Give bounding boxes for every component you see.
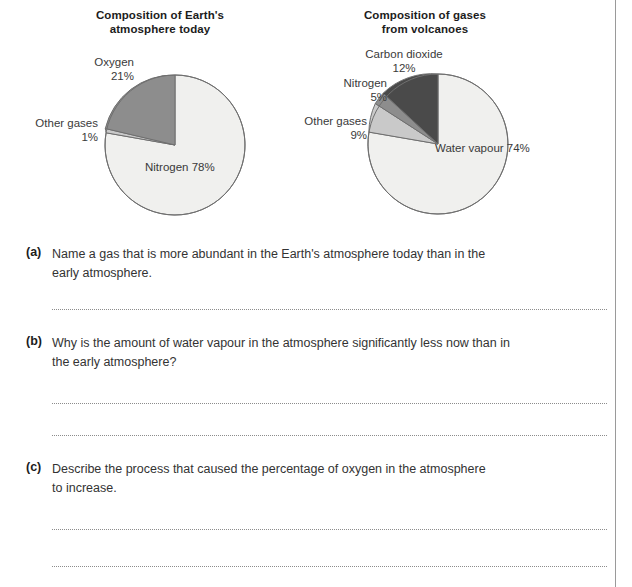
- pie-label-water-vapour-name-2: vapour: [468, 142, 503, 154]
- page-right-margin-rule: [615, 0, 616, 587]
- pie-label-nitrogen: Nitrogen 78%: [145, 160, 205, 174]
- question-a-line-2: early atmosphere.: [52, 264, 632, 283]
- pie-area-volcano: Carbon dioxide 12% Nitrogen 5% Other gas…: [295, 45, 555, 230]
- pie-label-water-vapour-name-1: Water: [435, 142, 465, 154]
- pie-label-nitrogen-pct: 78%: [192, 161, 215, 173]
- question-c-text: Describe the process that caused the per…: [28, 460, 632, 498]
- pie-label-other-gases-name: Other gases: [35, 117, 98, 129]
- pie-label-nitrogen: Nitrogen 5%: [344, 76, 387, 104]
- pie-label-carbon-dioxide-pct: 12%: [339, 61, 469, 75]
- chart-title-line-1: Composition of gases: [364, 9, 486, 21]
- pie-label-water-vapour-pct: 74%: [507, 142, 530, 154]
- question-b-head: (b) Why is the amount of water vapour in…: [0, 334, 632, 372]
- question-b-letter: (b): [26, 334, 42, 348]
- pie-label-nitrogen-name: Nitrogen: [344, 77, 387, 89]
- pie-area-earth: Oxygen 21% Other gases 1% Nitrogen 78%: [30, 45, 290, 230]
- chart-title-volcano-gases: Composition of gases from volcanoes: [295, 8, 555, 36]
- answer-line-c-2[interactable]: [52, 565, 607, 567]
- pie-label-carbon-dioxide-name: Carbon dioxide: [365, 48, 442, 60]
- pie-label-nitrogen-name: Nitrogen: [145, 161, 188, 173]
- question-c-letter: (c): [26, 460, 41, 474]
- pie-label-other-gases: Other gases 9%: [304, 114, 367, 142]
- pie-label-other-gases-name: Other gases: [304, 115, 367, 127]
- pie-label-other-gases: Other gases 1%: [35, 116, 98, 144]
- chart-title-line-1: Composition of Earth's: [96, 9, 224, 21]
- chart-title-earth-atmosphere: Composition of Earth's atmosphere today: [30, 8, 290, 36]
- answer-line-b-2[interactable]: [52, 434, 607, 436]
- question-a-letter: (a): [26, 245, 41, 259]
- pie-label-other-gases-pct: 9%: [304, 128, 367, 142]
- chart-title-line-2: from volcanoes: [295, 22, 555, 36]
- answer-line-c-1[interactable]: [52, 528, 607, 530]
- pie-label-oxygen-name: Oxygen: [94, 56, 134, 68]
- question-c-line-1: Describe the process that caused the per…: [52, 462, 486, 476]
- question-a-line-1: Name a gas that is more abundant in the …: [52, 247, 485, 261]
- question-a-head: (a) Name a gas that is more abundant in …: [0, 245, 632, 283]
- pie-label-other-gases-pct: 1%: [35, 130, 98, 144]
- question-c-line-2: to increase.: [52, 479, 632, 498]
- pie-label-nitrogen-pct: 5%: [344, 90, 387, 104]
- question-b-line-2: the early atmosphere?: [52, 353, 632, 372]
- question-b-text: Why is the amount of water vapour in the…: [28, 334, 632, 372]
- pie-label-oxygen-pct: 21%: [94, 69, 134, 83]
- answer-line-a-1[interactable]: [52, 308, 607, 310]
- question-b-line-1: Why is the amount of water vapour in the…: [52, 336, 510, 350]
- charts-figure: Composition of Earth's atmosphere today …: [0, 0, 615, 232]
- pie-label-carbon-dioxide: Carbon dioxide 12%: [339, 47, 469, 75]
- pie-label-oxygen: Oxygen 21%: [94, 55, 134, 83]
- question-c-head: (c) Describe the process that caused the…: [0, 460, 632, 498]
- chart-title-line-2: atmosphere today: [30, 22, 290, 36]
- pie-label-water-vapour: Water vapour 74%: [435, 141, 499, 155]
- answer-line-b-1[interactable]: [52, 402, 607, 404]
- question-a-text: Name a gas that is more abundant in the …: [28, 245, 632, 283]
